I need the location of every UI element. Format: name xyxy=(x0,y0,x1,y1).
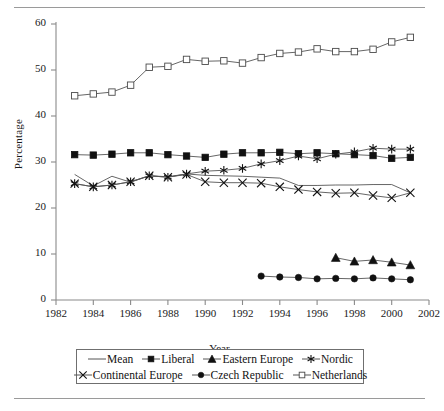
chart-plot-area: Percentage Year 0102030405060 1982198419… xyxy=(0,10,439,310)
marker-filled-square xyxy=(277,149,283,155)
marker-open-square xyxy=(183,56,189,62)
legend-label: Liberal xyxy=(161,353,194,365)
marker-filled-circle xyxy=(333,275,339,281)
marker-filled-square xyxy=(239,150,245,156)
marker-open-square xyxy=(351,48,357,54)
marker-open-square xyxy=(239,60,245,66)
legend-item-continental-europe[interactable]: Continental Europe xyxy=(73,369,183,381)
bottom-divider-rule xyxy=(14,398,425,399)
legend-item-nordic[interactable]: Nordic xyxy=(301,353,353,365)
marker-filled-circle xyxy=(277,274,283,280)
y-tick-label: 30 xyxy=(20,154,46,166)
marker-filled-square xyxy=(221,151,227,157)
legend-item-czech-republic[interactable]: Czech Republic xyxy=(191,369,284,381)
legend-item-netherlands[interactable]: Netherlands xyxy=(292,369,368,381)
legend-label: Eastern Europe xyxy=(222,353,293,365)
marker-open-square xyxy=(389,39,395,45)
legend-label: Mean xyxy=(107,353,133,365)
marker-filled-square xyxy=(127,150,133,156)
legend-key-asterisk xyxy=(301,353,321,365)
marker-open-square xyxy=(71,93,77,99)
marker-open-square xyxy=(221,58,227,64)
legend-key-filled-square xyxy=(141,353,161,365)
series-continental-europe xyxy=(71,170,415,202)
marker-filled-square xyxy=(146,150,152,156)
legend-key-filled-circle xyxy=(191,369,211,381)
marker-open-square xyxy=(258,54,264,60)
marker-open-square xyxy=(314,46,320,52)
legend-key-none xyxy=(87,353,107,365)
y-tick-label: 10 xyxy=(20,246,46,258)
marker-filled-square xyxy=(258,150,264,156)
y-tick-label: 60 xyxy=(20,16,46,28)
marker-filled-square xyxy=(71,151,77,157)
x-tick-label: 1994 xyxy=(261,307,299,319)
x-tick-label: 1982 xyxy=(37,307,75,319)
x-tick-label: 1990 xyxy=(186,307,224,319)
marker-filled-square xyxy=(109,151,115,157)
marker-open-square xyxy=(407,34,413,40)
line-chart-canvas xyxy=(0,10,439,310)
marker-filled-square xyxy=(183,153,189,159)
legend-key-x-cross xyxy=(73,369,93,381)
x-tick-label: 1992 xyxy=(224,307,262,319)
marker-filled-circle xyxy=(351,276,357,282)
marker-open-square xyxy=(277,50,283,56)
x-tick-label: 2000 xyxy=(373,307,411,319)
legend-row: Continental EuropeCzech RepublicNetherla… xyxy=(77,367,363,383)
marker-open-square xyxy=(90,91,96,97)
y-tick-label: 20 xyxy=(20,200,46,212)
marker-x-cross xyxy=(406,189,414,197)
marker-filled-square xyxy=(202,154,208,160)
legend-label: Netherlands xyxy=(312,369,368,381)
legend-key-filled-triangle xyxy=(202,353,222,365)
x-tick-label: 2002 xyxy=(410,307,444,319)
top-divider-rule xyxy=(14,7,425,8)
legend-label: Continental Europe xyxy=(93,369,183,381)
marker-open-square xyxy=(146,64,152,70)
legend-item-liberal[interactable]: Liberal xyxy=(141,353,194,365)
x-tick-label: 1988 xyxy=(149,307,187,319)
legend-key-open-square xyxy=(292,369,312,381)
series-liberal xyxy=(71,149,413,161)
marker-filled-square xyxy=(407,154,413,160)
marker-filled-square xyxy=(90,152,96,158)
x-tick-label: 1998 xyxy=(335,307,373,319)
marker-filled-square xyxy=(165,151,171,157)
marker-filled-circle xyxy=(198,372,204,378)
marker-filled-square xyxy=(148,356,154,362)
legend-label: Czech Republic xyxy=(211,369,284,381)
y-tick-label: 0 xyxy=(20,292,46,304)
legend-marker-none-icon xyxy=(87,353,107,365)
legend-marker-filled-square-icon xyxy=(141,353,161,365)
y-tick-label: 40 xyxy=(20,108,46,120)
legend-marker-open-square-icon xyxy=(292,369,312,381)
legend-marker-filled-triangle-icon xyxy=(202,353,222,365)
marker-filled-triangle xyxy=(369,256,378,264)
series-czech-republic xyxy=(258,273,414,283)
series-line xyxy=(75,174,411,197)
legend-item-eastern-europe[interactable]: Eastern Europe xyxy=(202,353,293,365)
legend-marker-x-cross-icon xyxy=(73,369,93,381)
x-tick-label: 1984 xyxy=(74,307,112,319)
legend-item-mean[interactable]: Mean xyxy=(87,353,133,365)
x-tick-label: 1996 xyxy=(298,307,336,319)
legend-marker-asterisk-icon xyxy=(301,353,321,365)
legend-marker-filled-circle-icon xyxy=(191,369,211,381)
marker-open-square xyxy=(165,63,171,69)
marker-open-square xyxy=(295,49,301,55)
marker-filled-square xyxy=(389,155,395,161)
marker-filled-square xyxy=(370,152,376,158)
marker-filled-circle xyxy=(258,273,264,279)
series-eastern-europe xyxy=(331,253,414,269)
marker-filled-circle xyxy=(314,276,320,282)
marker-filled-circle xyxy=(407,277,413,283)
marker-open-square xyxy=(299,372,305,378)
chart-legend: MeanLiberalEastern EuropeNordicContinent… xyxy=(76,349,364,384)
marker-open-square xyxy=(370,46,376,52)
legend-row: MeanLiberalEastern EuropeNordic xyxy=(77,351,363,367)
y-tick-label: 50 xyxy=(20,62,46,74)
marker-filled-circle xyxy=(295,274,301,280)
marker-open-square xyxy=(127,82,133,88)
